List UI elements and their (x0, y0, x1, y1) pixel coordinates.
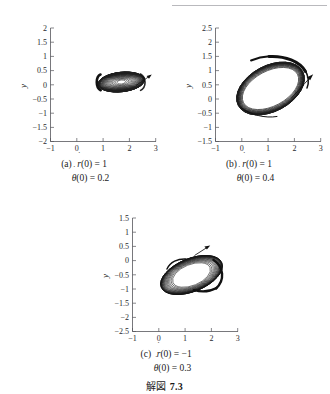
svg-text:−1.5: −1.5 (197, 137, 212, 146)
subplot-b: 2.5 2 1.5 1 0.5 0 −0.5 −1 −1.5 −1 0 1 2 … (165, 8, 330, 198)
y-axis-label-b: y (183, 84, 193, 89)
plot-area-b: 2.5 2 1.5 1 0.5 0 −0.5 −1 −1.5 −1 0 1 2 … (165, 8, 330, 156)
y-axis-label-a: y (18, 84, 28, 89)
svg-text:1: 1 (125, 228, 129, 237)
trajectory-a (97, 70, 152, 94)
caption-c: (c) ˙r(0) = −1 ˙θ(0) = 0.3 (82, 348, 247, 376)
svg-text:2: 2 (208, 38, 212, 47)
svg-text:−1: −1 (38, 109, 47, 118)
svg-text:0: 0 (208, 95, 212, 104)
subplot-a: 2 1.5 1 0.5 0 −0.5 −1 −1.5 −2 −1 0 1 2 3 (0, 8, 165, 198)
caption-c-line1: (c) ˙r(0) = −1 (82, 348, 247, 362)
chart-svg-c: 1.5 1 0.5 0 −0.5 −1 −1.5 −2 −2.5 −1 0 1 … (82, 198, 247, 346)
svg-text:0.5: 0.5 (202, 81, 212, 90)
plot-area-a: 2 1.5 1 0.5 0 −0.5 −1 −1.5 −2 −1 0 1 2 3 (0, 8, 165, 156)
svg-text:3: 3 (236, 334, 240, 343)
svg-text:3: 3 (154, 144, 158, 153)
svg-text:−0.5: −0.5 (197, 109, 212, 118)
x-ticks-b (216, 138, 321, 142)
caption-c-var2: θ (154, 363, 159, 373)
svg-text:−1: −1 (128, 334, 137, 343)
caption-c-eq1: (0) = −1 (160, 349, 191, 359)
svg-text:0: 0 (125, 256, 129, 265)
axis-lines-b (216, 28, 322, 142)
caption-a-line2: ˙θ(0) = 0.2 (0, 172, 165, 186)
caption-c-eq2: (0) = 0.3 (158, 363, 191, 373)
svg-text:0: 0 (43, 81, 47, 90)
chart-svg-a: 2 1.5 1 0.5 0 −0.5 −1 −1.5 −2 −1 0 1 2 3 (0, 8, 165, 156)
svg-text:1.5: 1.5 (119, 214, 129, 223)
svg-text:−1.5: −1.5 (32, 123, 47, 132)
trajectory-c (155, 245, 228, 302)
y-tick-labels-a: 2 1.5 1 0.5 0 −0.5 −1 −1.5 −2 (32, 24, 47, 147)
svg-text:2.5: 2.5 (202, 24, 212, 33)
caption-b-var2: θ (237, 173, 242, 183)
svg-text:−0.5: −0.5 (32, 95, 47, 104)
svg-text:2: 2 (209, 334, 213, 343)
caption-b-line2: ˙θ(0) = 0.4 (165, 172, 330, 186)
subplot-c: 1.5 1 0.5 0 −0.5 −1 −1.5 −2 −2.5 −1 0 1 … (82, 198, 247, 394)
svg-text:−0.5: −0.5 (114, 271, 129, 280)
svg-text:1: 1 (208, 66, 212, 75)
svg-text:0.5: 0.5 (37, 66, 47, 75)
svg-text:−1: −1 (120, 285, 129, 294)
x-axis-label-c: x (183, 342, 188, 346)
y-tick-labels-b: 2.5 2 1.5 1 0.5 0 −0.5 −1 −1.5 (197, 24, 212, 147)
caption-a-var1: r (77, 159, 81, 169)
caption-a-line1: (a) ˙r(0) = 1 (0, 158, 165, 172)
svg-text:−1: −1 (211, 144, 220, 153)
svg-text:−1: −1 (203, 123, 212, 132)
chart-svg-b: 2.5 2 1.5 1 0.5 0 −0.5 −1 −1.5 −1 0 1 2 … (165, 8, 330, 156)
svg-text:2: 2 (127, 144, 131, 153)
svg-text:1.5: 1.5 (37, 38, 47, 47)
y-tick-labels-c: 1.5 1 0.5 0 −0.5 −1 −1.5 −2 −2.5 (114, 214, 129, 336)
svg-text:3: 3 (319, 144, 323, 153)
caption-a: (a) ˙r(0) = 1 ˙θ(0) = 0.2 (0, 158, 165, 186)
figure-title-number: 7.3 (170, 381, 183, 392)
svg-text:−1.5: −1.5 (114, 299, 129, 308)
caption-b: (b) ˙r(0) = 1 ˙θ(0) = 0.4 (165, 158, 330, 186)
caption-b-eq1: (0) = 1 (246, 159, 272, 169)
caption-a-var2: θ (72, 173, 77, 183)
caption-a-eq1: (0) = 1 (81, 159, 107, 169)
caption-c-line2: ˙θ(0) = 0.3 (82, 362, 247, 376)
caption-b-eq2: (0) = 0.4 (241, 173, 274, 183)
svg-text:1.5: 1.5 (202, 52, 212, 61)
y-ticks-b (216, 28, 220, 142)
y-axis-label-c: y (100, 274, 110, 279)
top-horizontal-rule (172, 5, 327, 6)
figure-title-jp: 解図 (146, 381, 166, 392)
x-axis-label-a: x (101, 152, 106, 156)
svg-text:2: 2 (43, 24, 47, 33)
svg-text:1: 1 (43, 52, 47, 61)
svg-text:−2.5: −2.5 (114, 327, 129, 336)
caption-b-line1: (b) ˙r(0) = 1 (165, 158, 330, 172)
x-ticks-a (51, 138, 156, 142)
figure-title: 解図 7.3 (82, 378, 247, 393)
caption-a-eq2: (0) = 0.2 (76, 173, 109, 183)
x-axis-label-b: x (266, 152, 271, 156)
svg-text:−1: −1 (46, 144, 55, 153)
direction-arrow-c (195, 245, 211, 255)
caption-b-var1: r (242, 159, 246, 169)
figure-page: 2 1.5 1 0.5 0 −0.5 −1 −1.5 −2 −1 0 1 2 3 (0, 0, 330, 394)
svg-text:2: 2 (292, 144, 296, 153)
caption-c-tag: (c) (137, 348, 154, 362)
trajectory-b (228, 51, 314, 125)
x-ticks-c (133, 328, 238, 332)
svg-text:−2: −2 (120, 313, 129, 322)
y-ticks-a (51, 28, 55, 142)
plot-area-c: 1.5 1 0.5 0 −0.5 −1 −1.5 −2 −2.5 −1 0 1 … (82, 198, 247, 346)
svg-text:0.5: 0.5 (119, 242, 129, 251)
y-ticks-c (133, 218, 137, 332)
